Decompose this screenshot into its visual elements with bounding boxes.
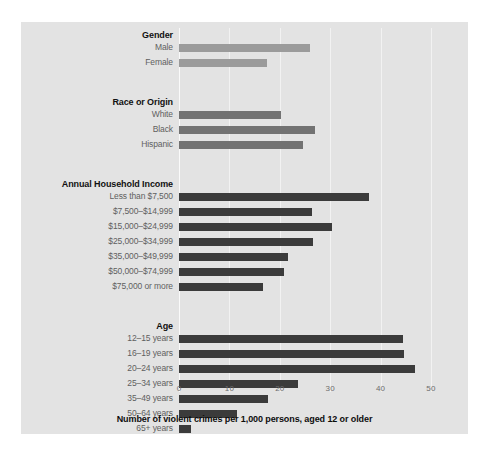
bar (179, 59, 267, 67)
bar (179, 350, 404, 358)
bar-label: 20–24 years (21, 363, 173, 373)
bar (179, 141, 303, 149)
group-title-gender: Gender (21, 30, 173, 40)
bar (179, 335, 403, 343)
gridline-50 (431, 28, 432, 392)
bar-label: 12–15 years (21, 333, 173, 343)
bar-label: $15,000–$24,999 (21, 221, 173, 231)
x-tick-label: 20 (275, 384, 284, 393)
bar (179, 365, 415, 373)
bar-label: White (21, 109, 173, 119)
group-title-race-or-origin: Race or Origin (21, 97, 173, 107)
bar-label: 65+ years (21, 423, 173, 433)
bar (179, 44, 310, 52)
bar-label: $35,000–$49,999 (21, 251, 173, 261)
bar-label: $7,500–$14,999 (21, 206, 173, 216)
x-tick-label: 50 (426, 384, 435, 393)
bar (179, 253, 288, 261)
bar-label: 16–19 years (21, 348, 173, 358)
plot-area: GenderMaleFemaleRace or OriginWhiteBlack… (21, 22, 468, 434)
bar-label: Less than $7,500 (21, 191, 173, 201)
x-tick-label: 30 (326, 384, 335, 393)
bar (179, 126, 315, 134)
bar (179, 111, 281, 119)
chart-figure: GenderMaleFemaleRace or OriginWhiteBlack… (21, 22, 468, 434)
bar (179, 193, 369, 201)
group-title-annual-household-income: Annual Household Income (21, 179, 173, 189)
bar-label: Hispanic (21, 139, 173, 149)
bar (179, 283, 263, 291)
bar-label: Black (21, 124, 173, 134)
bar-label: Male (21, 42, 173, 52)
bar-label: Female (21, 57, 173, 67)
bar-label: 25–34 years (21, 378, 173, 388)
x-tick-label: 40 (376, 384, 385, 393)
bar (179, 425, 191, 433)
x-tick-label: 0 (177, 384, 182, 393)
group-title-age: Age (21, 321, 173, 331)
bar-label: $75,000 or more (21, 281, 173, 291)
bar-label: $50,000–$74,999 (21, 266, 173, 276)
bar-label: 35–49 years (21, 393, 173, 403)
bar (179, 238, 313, 246)
bar (179, 268, 284, 276)
bar (179, 208, 312, 216)
bar (179, 223, 332, 231)
x-tick-label: 10 (225, 384, 234, 393)
x-axis-title: Number of violent crimes per 1,000 perso… (21, 414, 468, 424)
bar-label: $25,000–$34,999 (21, 236, 173, 246)
bar (179, 395, 268, 403)
